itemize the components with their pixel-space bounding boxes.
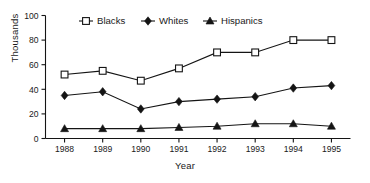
line-chart: 020406080100 198819891990199119921993199… xyxy=(0,0,370,183)
data-point-blacks-1990 xyxy=(137,77,144,84)
legend-marker-whites xyxy=(145,17,152,25)
y-tick-label-80: 80 xyxy=(29,35,39,45)
x-tick-label-1992: 1992 xyxy=(208,144,227,154)
data-point-whites-1995 xyxy=(328,81,335,89)
series-blacks xyxy=(61,37,335,84)
legend-label-blacks: Blacks xyxy=(97,15,125,26)
chart-series-layer xyxy=(61,37,336,132)
x-tick-label-1990: 1990 xyxy=(131,144,150,154)
data-point-blacks-1993 xyxy=(252,49,259,56)
y-tick-label-60: 60 xyxy=(29,60,39,70)
data-point-blacks-1991 xyxy=(176,65,183,72)
x-tick-label-1989: 1989 xyxy=(93,144,112,154)
chart-plot-area: 020406080100 198819891990199119921993199… xyxy=(0,0,370,183)
data-point-blacks-1995 xyxy=(328,37,335,44)
data-point-whites-1990 xyxy=(137,105,144,113)
x-axis-title: Year xyxy=(0,160,370,171)
y-tick-label-20: 20 xyxy=(29,109,39,119)
data-point-whites-1992 xyxy=(214,95,221,103)
x-axis-ticks xyxy=(65,139,332,143)
series-hispanics xyxy=(61,120,336,132)
legend-item-blacks[interactable]: Blacks xyxy=(79,15,125,26)
data-point-blacks-1989 xyxy=(99,67,106,74)
x-tick-label-1991: 1991 xyxy=(169,144,188,154)
y-axis-title: Thousands xyxy=(9,0,20,78)
legend-item-whites[interactable]: Whites xyxy=(141,15,189,26)
x-tick-label-1988: 1988 xyxy=(55,144,74,154)
data-point-whites-1988 xyxy=(61,91,68,99)
data-point-blacks-1992 xyxy=(214,49,221,56)
data-point-whites-1993 xyxy=(252,92,259,100)
legend-label-hispanics: Hispanics xyxy=(221,15,263,26)
y-tick-label-40: 40 xyxy=(29,85,39,95)
data-point-whites-1991 xyxy=(176,97,183,105)
data-point-blacks-1988 xyxy=(61,71,68,78)
y-axis-ticks xyxy=(42,16,46,139)
series-whites xyxy=(61,81,335,113)
legend-label-whites: Whites xyxy=(159,15,189,26)
data-point-blacks-1994 xyxy=(290,37,297,44)
y-axis-tick-labels: 020406080100 xyxy=(24,11,39,144)
x-tick-label-1995: 1995 xyxy=(322,144,341,154)
x-tick-label-1994: 1994 xyxy=(284,144,303,154)
legend-marker-blacks xyxy=(83,18,90,25)
legend-item-hispanics[interactable]: Hispanics xyxy=(203,15,263,26)
y-tick-label-0: 0 xyxy=(34,134,39,144)
x-tick-label-1993: 1993 xyxy=(246,144,265,154)
chart-legend: BlacksWhitesHispanics xyxy=(79,15,263,26)
x-axis-tick-labels: 19881989199019911992199319941995 xyxy=(55,144,341,154)
y-tick-label-100: 100 xyxy=(24,11,39,21)
data-point-whites-1989 xyxy=(99,88,106,96)
data-point-whites-1994 xyxy=(290,84,297,92)
